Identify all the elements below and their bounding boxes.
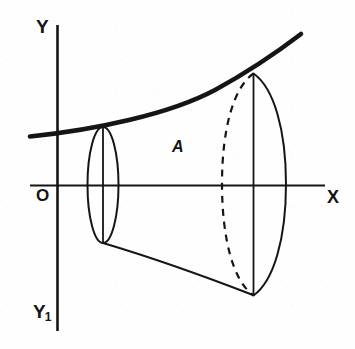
- negative-y-axis-label: Y1: [33, 302, 51, 323]
- negative-y-axis-label-base: Y: [33, 301, 46, 322]
- axes-group: [30, 25, 325, 331]
- origin-label: O: [36, 187, 49, 204]
- solid-of-revolution-figure: Y O X Y1 A: [0, 0, 355, 349]
- region-label-a: A: [172, 139, 184, 155]
- negative-y-axis-label-subscript: 1: [45, 310, 52, 324]
- x-axis-label: X: [327, 188, 339, 206]
- figure-canvas: [0, 0, 355, 349]
- generating-curve: [30, 34, 301, 137]
- y-axis-label: Y: [36, 17, 48, 36]
- lower-profile-curve: [103, 243, 253, 295]
